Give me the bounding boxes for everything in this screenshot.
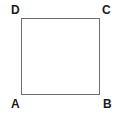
figure-canvas: D C A B [0, 0, 123, 119]
square-shape [21, 18, 100, 95]
vertex-label-c: C [102, 4, 111, 16]
vertex-label-b: B [103, 98, 112, 110]
vertex-label-a: A [11, 98, 20, 110]
vertex-label-d: D [11, 4, 20, 16]
